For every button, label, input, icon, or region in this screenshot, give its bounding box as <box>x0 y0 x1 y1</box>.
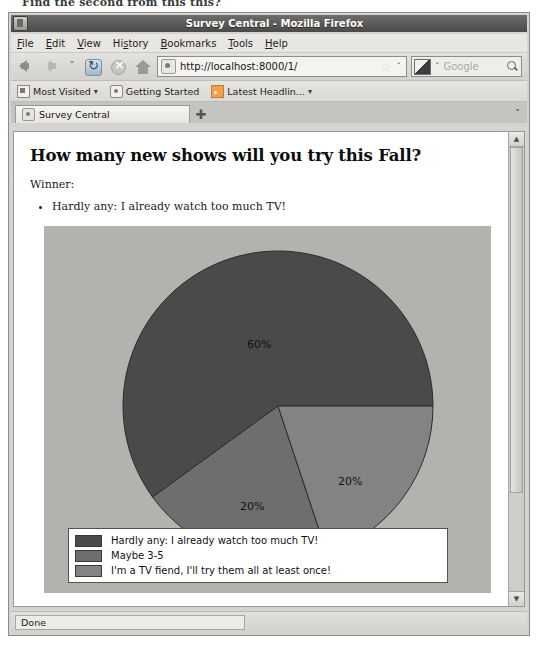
clipped-top-text: Find the second from this this? <box>22 0 242 8</box>
vertical-scrollbar[interactable]: ▲ ▼ <box>508 132 524 606</box>
legend-swatch <box>75 550 102 562</box>
bookmark-latest-headlines[interactable]: Latest Headlin... ▾ <box>211 85 312 98</box>
window-title: Survey Central - Mozilla Firefox <box>28 18 527 29</box>
scrollbar-track[interactable] <box>509 147 524 591</box>
tab-strip: Survey Central ✚ ˇ <box>11 102 527 123</box>
search-engine-icon[interactable] <box>414 59 431 75</box>
legend-label: Maybe 3-5 <box>111 550 164 561</box>
menu-file[interactable]: File <box>17 38 34 49</box>
tab-list-chevron-icon[interactable]: ˇ <box>515 109 520 120</box>
tab-label: Survey Central <box>39 109 110 120</box>
winner-label: Winner: <box>30 178 508 191</box>
tab-survey-central[interactable]: Survey Central <box>15 105 190 123</box>
grid-icon <box>17 85 30 98</box>
home-icon[interactable] <box>132 56 153 77</box>
chart-legend: Hardly any: I already watch too much TV!… <box>68 528 448 583</box>
browser-window: Survey Central - Mozilla Firefox – ✕ Fil… <box>8 12 530 636</box>
stop-icon[interactable] <box>107 56 128 77</box>
chevron-down-icon: ▾ <box>308 87 312 96</box>
pie-label-0: 60% <box>247 338 271 351</box>
url-text[interactable]: http://localhost:8000/1/ <box>180 61 376 72</box>
scroll-down-button[interactable]: ▼ <box>509 591 524 606</box>
url-dropdown-icon[interactable]: ˇ <box>395 62 404 72</box>
bookmark-label: Getting Started <box>126 86 199 97</box>
legend-label: I'm a TV fiend, I'll try them all at lea… <box>111 565 331 576</box>
legend-item: Maybe 3-5 <box>75 548 441 563</box>
circle-icon <box>110 85 123 98</box>
title-bar: Survey Central - Mozilla Firefox – ✕ <box>11 15 527 32</box>
back-icon[interactable] <box>16 56 37 77</box>
legend-item: Hardly any: I already watch too much TV! <box>75 533 441 548</box>
bookmarks-toolbar: Most Visited ▾ Getting Started Latest He… <box>11 81 527 102</box>
pie-label-1: 20% <box>240 500 264 513</box>
bookmark-most-visited[interactable]: Most Visited ▾ <box>17 85 98 98</box>
navigation-toolbar: ˇ http://localhost:8000/1/ ☆ ˇ ˇ Google <box>11 53 527 81</box>
bookmark-star-icon[interactable]: ☆ <box>380 60 391 74</box>
menu-view[interactable]: View <box>77 38 101 49</box>
search-bar[interactable]: ˇ Google <box>411 56 522 77</box>
search-engine-dropdown-icon[interactable]: ˇ <box>433 62 442 72</box>
menu-bookmarks[interactable]: Bookmarks <box>160 38 216 49</box>
status-text: Done <box>21 617 46 628</box>
content-viewport: How many new shows will you try this Fal… <box>13 131 525 607</box>
bookmark-getting-started[interactable]: Getting Started <box>110 85 199 98</box>
pie-chart: 60% 20% 20% Hardly any: I already watch … <box>44 226 491 593</box>
scroll-up-button[interactable]: ▲ <box>509 132 524 147</box>
web-page: How many new shows will you try this Fal… <box>14 132 508 606</box>
reload-icon[interactable] <box>82 56 103 77</box>
search-icon[interactable] <box>506 60 519 73</box>
url-bar[interactable]: http://localhost:8000/1/ ☆ ˇ <box>157 56 407 77</box>
firefox-app-icon <box>13 16 28 31</box>
menu-tools[interactable]: Tools <box>228 38 253 49</box>
chevron-down-icon: ▾ <box>94 87 98 96</box>
page-favicon <box>161 59 176 74</box>
menu-bar: File Edit View History Bookmarks Tools H… <box>11 34 527 53</box>
status-bar: Done <box>11 611 527 633</box>
pie-label-2: 20% <box>338 475 362 488</box>
search-input[interactable]: Google <box>444 61 505 72</box>
legend-swatch <box>75 565 102 577</box>
history-dropdown-icon[interactable]: ˇ <box>66 61 78 72</box>
tab-favicon <box>22 108 35 121</box>
menu-edit[interactable]: Edit <box>46 38 65 49</box>
menu-history[interactable]: History <box>113 38 149 49</box>
bookmark-label: Most Visited <box>33 86 91 97</box>
status-field: Done <box>15 615 245 630</box>
winner-list: Hardly any: I already watch too much TV! <box>30 199 508 214</box>
bookmark-label: Latest Headlin... <box>227 86 305 97</box>
list-item: Hardly any: I already watch too much TV! <box>52 199 508 214</box>
scrollbar-thumb[interactable] <box>510 147 523 493</box>
legend-swatch <box>75 535 102 547</box>
page-title: How many new shows will you try this Fal… <box>30 146 508 165</box>
rss-icon <box>211 85 224 98</box>
menu-help[interactable]: Help <box>265 38 288 49</box>
new-tab-button[interactable]: ✚ <box>190 105 212 123</box>
legend-item: I'm a TV fiend, I'll try them all at lea… <box>75 563 441 578</box>
legend-label: Hardly any: I already watch too much TV! <box>111 535 318 546</box>
forward-icon <box>41 56 62 77</box>
